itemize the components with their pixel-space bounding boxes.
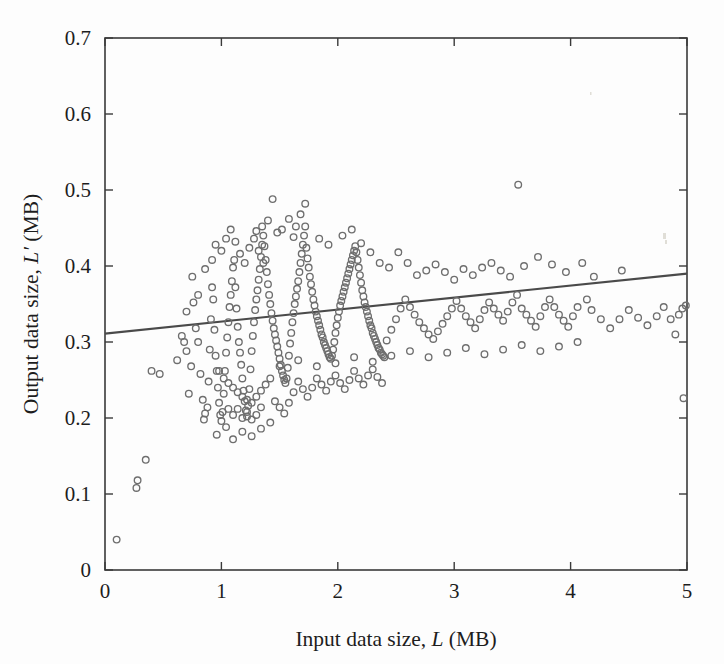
data-point (248, 433, 255, 440)
data-point (395, 249, 402, 256)
data-point (231, 257, 238, 264)
data-point (223, 235, 230, 242)
data-point (197, 371, 204, 378)
data-point (667, 316, 674, 323)
data-point (463, 313, 470, 320)
data-point (314, 375, 321, 382)
data-point (653, 313, 660, 320)
data-point (411, 311, 418, 318)
data-point (358, 279, 365, 286)
y-axis-title: Output data size, L′ (MB) (19, 194, 43, 414)
data-point (477, 316, 484, 323)
data-point (216, 400, 223, 407)
data-point (302, 223, 309, 230)
data-point (309, 289, 316, 296)
data-point (254, 287, 261, 294)
data-point (227, 292, 234, 299)
data-point (183, 348, 190, 355)
data-point (470, 272, 477, 279)
data-point (290, 234, 297, 241)
data-point (188, 363, 195, 370)
data-point (339, 232, 346, 239)
data-point (479, 264, 486, 271)
data-point (208, 316, 215, 323)
data-point (451, 276, 458, 283)
data-point (233, 305, 240, 312)
data-point (209, 284, 216, 291)
data-point (224, 334, 231, 341)
data-point (202, 266, 209, 273)
data-point (286, 352, 293, 359)
data-point (570, 313, 577, 320)
data-point (316, 235, 323, 242)
data-point (246, 244, 253, 251)
data-point (500, 346, 507, 353)
data-point (238, 362, 245, 369)
data-point (458, 305, 465, 312)
fit-line (105, 274, 687, 334)
data-point (325, 241, 332, 248)
data-point (344, 275, 351, 282)
data-point (264, 269, 271, 276)
data-point (314, 363, 321, 370)
data-point (195, 339, 202, 346)
x-tick-label: 1 (216, 579, 227, 603)
data-point (556, 343, 563, 350)
data-point (212, 241, 219, 248)
data-point (535, 254, 542, 261)
scan-speck (663, 233, 666, 239)
data-point (234, 324, 241, 331)
data-point (318, 381, 325, 388)
data-point (295, 378, 302, 385)
data-point (523, 311, 530, 318)
data-point (521, 263, 528, 270)
data-point (357, 272, 364, 279)
data-point (253, 228, 260, 235)
data-point (374, 374, 381, 381)
tick-labels: 01234500.10.20.30.40.50.60.7 (65, 26, 693, 603)
data-point (488, 260, 495, 267)
x-axis-title: Input data size, L (MB) (295, 627, 496, 651)
data-point (289, 319, 296, 326)
data-point (309, 384, 316, 391)
data-point (258, 425, 265, 432)
data-point (262, 381, 269, 388)
data-point (449, 305, 456, 312)
data-point (551, 304, 558, 311)
data-point (635, 314, 642, 321)
data-point (288, 330, 295, 337)
data-point (183, 308, 190, 315)
data-point (432, 261, 439, 268)
data-point (237, 251, 244, 258)
data-point (248, 348, 255, 355)
data-point (255, 276, 262, 283)
data-point (295, 357, 302, 364)
x-axis-title-symbol: L (431, 627, 444, 651)
data-point (295, 278, 302, 285)
data-point (267, 419, 274, 426)
y-tick-label: 0.4 (65, 254, 92, 278)
y-tick-label: 0.5 (65, 178, 91, 202)
data-point (514, 292, 521, 299)
data-point (495, 311, 502, 318)
data-point (435, 328, 442, 335)
data-point (360, 381, 367, 388)
data-point (134, 477, 141, 484)
data-point (425, 354, 432, 361)
data-point (205, 378, 212, 385)
data-point (338, 298, 345, 305)
data-point (186, 390, 193, 397)
data-point (486, 299, 493, 306)
data-point (407, 348, 414, 355)
data-point (423, 267, 430, 274)
y-tick-label: 0.3 (65, 330, 91, 354)
data-point (199, 396, 206, 403)
data-point (442, 269, 449, 276)
data-point (305, 264, 312, 271)
data-point (574, 339, 581, 346)
data-point (315, 317, 322, 324)
data-point (250, 333, 257, 340)
scan-speck (665, 240, 667, 244)
data-point (287, 340, 294, 347)
y-tick-label: 0.7 (65, 26, 91, 50)
